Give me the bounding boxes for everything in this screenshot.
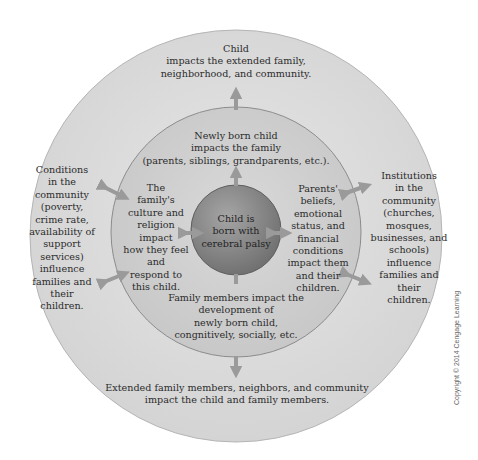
community-right-text: Institutions in the community (churches,… xyxy=(366,170,452,306)
community-left-text: Conditions in the community (poverty, cr… xyxy=(20,164,104,313)
family-top-text: Newly born child impacts the family (par… xyxy=(136,130,336,167)
family-left-text: The family's culture and religion impact… xyxy=(118,182,194,294)
community-bottom-text: Extended family members, neighbors, and … xyxy=(96,382,378,407)
family-right-text: Parents' beliefs, emotional status, and … xyxy=(282,183,354,295)
copyright-notice: Copyright © 2014 Cengage Learning xyxy=(453,291,460,405)
community-top-text: Child impacts the extended family, neigh… xyxy=(136,43,336,80)
family-bottom-text: Family members impact the development of… xyxy=(156,292,316,342)
center-label: Child is born with cerebral palsy xyxy=(196,213,276,250)
